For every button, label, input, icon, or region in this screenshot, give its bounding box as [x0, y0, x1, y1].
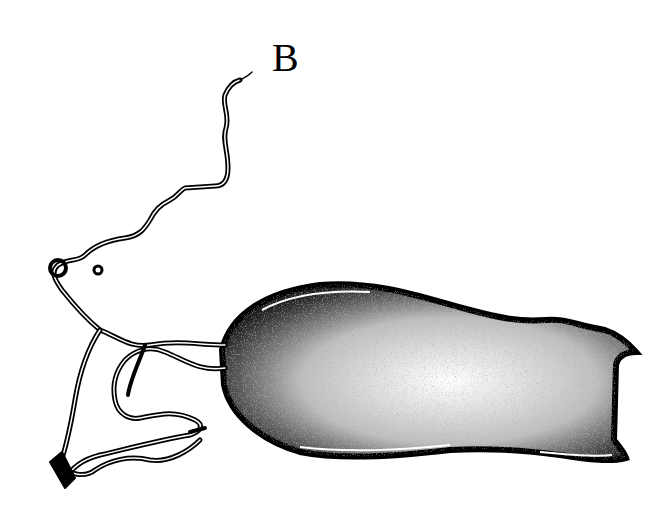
tendrils [50, 72, 252, 488]
illustration: B [0, 0, 669, 522]
egg-case-drawing [0, 0, 669, 522]
outer-tendril [60, 330, 200, 475]
egg-case-body [222, 284, 636, 460]
upper-tendril [54, 80, 240, 346]
